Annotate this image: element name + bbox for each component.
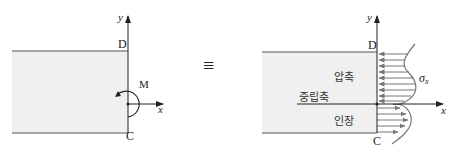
- left-beam-figure: y D M x C: [12, 11, 163, 143]
- stress-distribution-curve: [392, 44, 416, 144]
- compression-stress-arrows: [379, 54, 416, 101]
- equivalence-symbol: ≡: [203, 54, 214, 76]
- right-origin-dot: [375, 102, 378, 105]
- left-origin-dot: [127, 103, 130, 106]
- tension-stress-arrows: [377, 108, 408, 132]
- right-point-d: D: [368, 38, 377, 52]
- right-x-label: x: [440, 104, 446, 116]
- neutral-axis-label: 중립축: [299, 91, 329, 104]
- left-beam: [12, 51, 128, 133]
- right-y-label: y: [366, 11, 372, 23]
- left-point-c: C: [126, 129, 134, 143]
- left-x-label: x: [157, 103, 163, 115]
- compression-label: 압축: [334, 71, 354, 84]
- right-beam-figure: y D 압축 중립축 인장 σx x C: [262, 11, 446, 148]
- left-y-label: y: [117, 11, 123, 23]
- left-moment-label: M: [139, 78, 149, 90]
- tension-label: 인장: [334, 115, 354, 128]
- right-point-c: C: [373, 134, 381, 148]
- stress-label: σx: [419, 71, 429, 86]
- left-point-d: D: [118, 37, 127, 51]
